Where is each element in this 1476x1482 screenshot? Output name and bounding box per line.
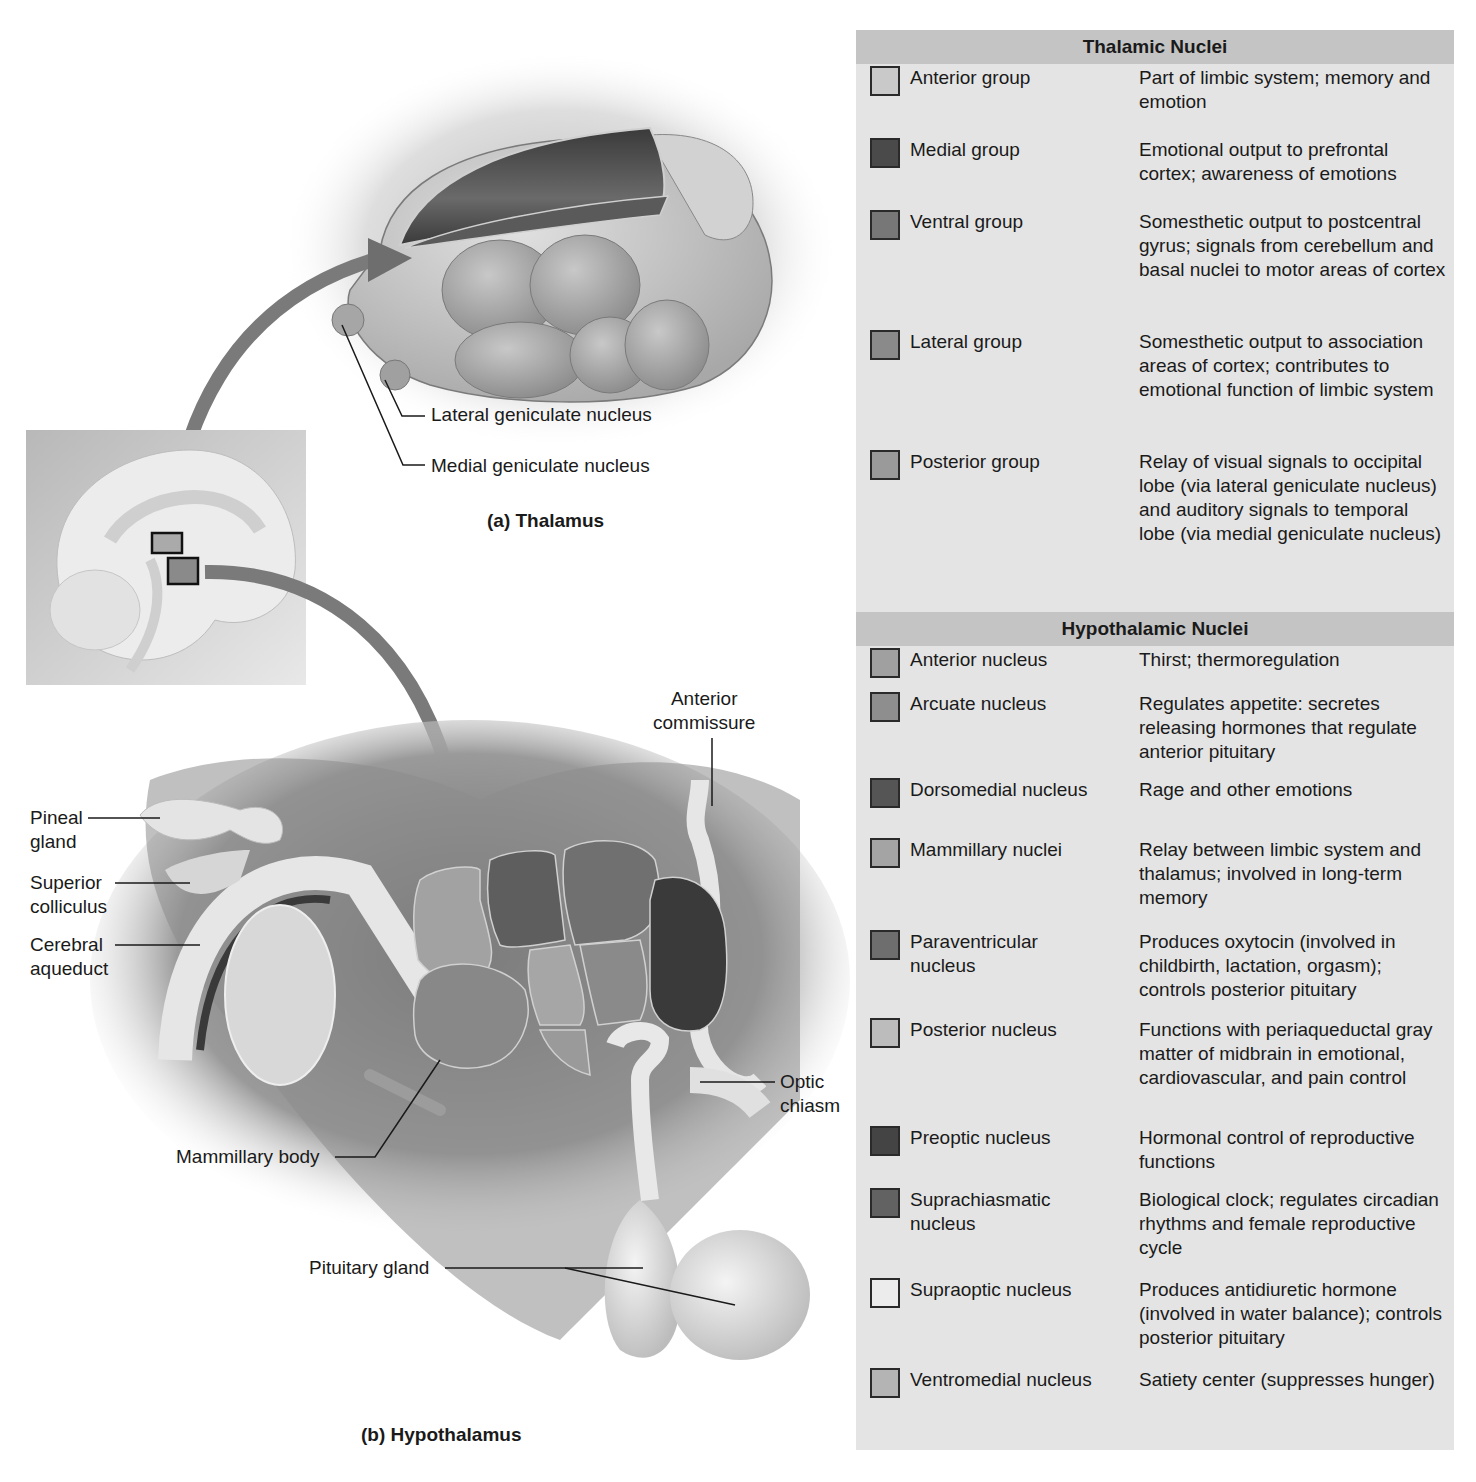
nucleus-function: Regulates appetite: secretes releasing h… [1139, 692, 1449, 764]
nucleus-function: Relay of visual signals to occipital lob… [1139, 450, 1449, 546]
hypothalamic-nuclei-header: Hypothalamic Nuclei [856, 612, 1454, 646]
label-superior-colliculus: Superior colliculus [30, 871, 107, 919]
color-swatch [870, 138, 900, 168]
color-swatch [870, 1368, 900, 1398]
nucleus-name: Suprachiasmatic nucleus [910, 1188, 1060, 1236]
color-swatch [870, 66, 900, 96]
color-swatch [870, 648, 900, 678]
nuclei-table: Thalamic Nuclei Anterior groupPart of li… [856, 30, 1454, 1450]
nucleus-name: Arcuate nucleus [910, 692, 1125, 716]
nucleus-name: Medial group [910, 138, 1130, 162]
nucleus-function: Emotional output to prefrontal cortex; a… [1139, 138, 1449, 186]
nucleus-name: Mammillary nuclei [910, 838, 1125, 862]
nucleus-name: Posterior nucleus [910, 1018, 1125, 1042]
nucleus-function: Relay between limbic system and thalamus… [1139, 838, 1449, 910]
label-cerebral-aqueduct: Cerebral aqueduct [30, 933, 108, 981]
nucleus-name: Paraventricular nucleus [910, 930, 1060, 978]
nucleus-function: Hormonal control of reproductive functio… [1139, 1126, 1449, 1174]
nucleus-function: Part of limbic system; memory and emotio… [1139, 66, 1449, 114]
label-mammillary-body: Mammillary body [176, 1145, 320, 1169]
nucleus-function: Functions with periaqueductal gray matte… [1139, 1018, 1449, 1090]
nucleus-name: Anterior nucleus [910, 648, 1125, 672]
nucleus-function: Satiety center (suppresses hunger) [1139, 1368, 1449, 1392]
color-swatch [870, 1018, 900, 1048]
color-swatch [870, 838, 900, 868]
nucleus-function: Somesthetic output to postcentral gyrus;… [1139, 210, 1449, 282]
nucleus-function: Produces antidiuretic hormone (involved … [1139, 1278, 1449, 1350]
color-swatch [870, 778, 900, 808]
hypothalamic-nuclei-list: Anterior nucleusThirst; thermoregulation… [856, 646, 1454, 660]
nucleus-name: Posterior group [910, 450, 1130, 474]
nucleus-name: Ventral group [910, 210, 1130, 234]
color-swatch [870, 210, 900, 240]
color-swatch [870, 1126, 900, 1156]
caption-hypothalamus: (b) Hypothalamus [361, 1424, 521, 1446]
nucleus-function: Produces oxytocin (involved in childbirt… [1139, 930, 1449, 1002]
label-optic-chiasm: Optic chiasm [780, 1070, 840, 1118]
nucleus-function: Rage and other emotions [1139, 778, 1449, 802]
label-pituitary-gland: Pituitary gland [309, 1256, 429, 1280]
label-pineal-gland: Pineal gland [30, 806, 83, 854]
nucleus-function: Somesthetic output to association areas … [1139, 330, 1449, 402]
label-lateral-geniculate-nucleus: Lateral geniculate nucleus [431, 403, 652, 427]
label-medial-geniculate-nucleus: Medial geniculate nucleus [431, 454, 650, 478]
caption-thalamus: (a) Thalamus [487, 510, 604, 532]
label-anterior-commissure: Anterior commissure [653, 687, 755, 735]
anatomy-illustration: Lateral geniculate nucleus Medial genicu… [0, 0, 850, 1482]
nucleus-name: Supraoptic nucleus [910, 1278, 1125, 1302]
color-swatch [870, 930, 900, 960]
thalamic-nuclei-header: Thalamic Nuclei [856, 30, 1454, 64]
color-swatch [870, 1188, 900, 1218]
thalamic-nuclei-list: Anterior groupPart of limbic system; mem… [856, 64, 1454, 78]
nucleus-name: Dorsomedial nucleus [910, 778, 1125, 802]
nucleus-function: Thirst; thermoregulation [1139, 648, 1449, 672]
color-swatch [870, 1278, 900, 1308]
nucleus-name: Anterior group [910, 66, 1130, 90]
color-swatch [870, 330, 900, 360]
nucleus-function: Biological clock; regulates circadian rh… [1139, 1188, 1449, 1260]
color-swatch [870, 692, 900, 722]
nucleus-name: Ventromedial nucleus [910, 1368, 1125, 1392]
color-swatch [870, 450, 900, 480]
nucleus-name: Preoptic nucleus [910, 1126, 1125, 1150]
nucleus-name: Lateral group [910, 330, 1130, 354]
